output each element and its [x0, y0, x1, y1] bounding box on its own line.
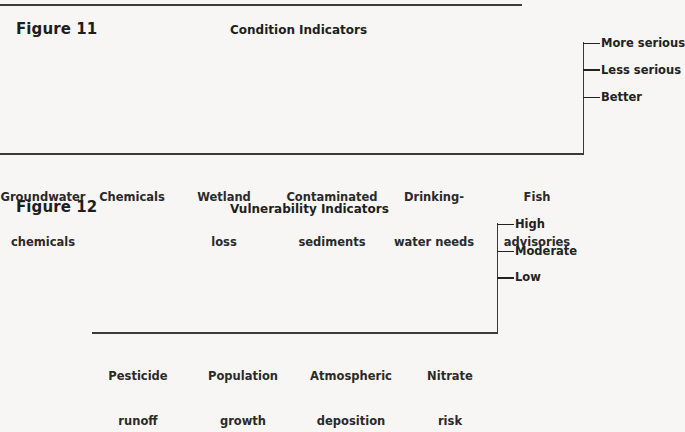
figure-12-tick-moderate [497, 251, 514, 253]
figure-11-category-contaminated-sediments: Contaminated sediments [286, 160, 377, 280]
figure-12-tick-high [497, 224, 514, 226]
figure-11-category-groundwater-chemicals: Groundwater chemicals [1, 160, 86, 280]
figure-11-title: Condition Indicators [230, 23, 367, 37]
figure-11-category-chemicals: Chemicals [99, 160, 165, 265]
figure-11-label: Figure 11 [16, 20, 97, 38]
figure-11-tick-better [583, 97, 600, 99]
figure-12-label: Figure 12 [16, 198, 97, 216]
figure-12-level-moderate: Moderate [515, 244, 577, 258]
top-rule [0, 4, 522, 6]
figure-12-title: Vulnerability Indicators [230, 202, 389, 216]
figure-12-level-high: High [515, 217, 545, 231]
figure-11-tick-less-serious [583, 69, 600, 71]
figure-12-category-population-growth: Population growth [208, 339, 278, 432]
figure-11-y-axis [583, 42, 585, 155]
figure-11-level-less-serious: Less serious [601, 63, 681, 77]
figure-12-level-low: Low [515, 270, 541, 284]
figure-12-x-axis [92, 332, 498, 334]
figure-11-level-more-serious: More serious [601, 36, 685, 50]
figure-11-category-drinking-water-needs: Drinking- water needs [394, 160, 474, 280]
figure-11-level-better: Better [601, 90, 642, 104]
figure-12-tick-low [497, 277, 514, 279]
figure-11-x-axis [0, 153, 584, 155]
figure-11-tick-more-serious [583, 43, 600, 45]
figure-11-category-wetland-loss: Wetland loss [197, 160, 251, 280]
figure-12-category-atmospheric-deposition: Atmospheric deposition [310, 339, 392, 432]
figure-12-category-nitrate-risk: Nitrate risk [427, 339, 473, 432]
figure-12-category-pesticide-runoff: Pesticide runoff [108, 339, 167, 432]
